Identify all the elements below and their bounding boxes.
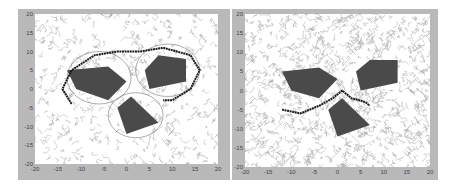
y-tick-label: -5 (238, 107, 244, 113)
y-tick-label: 20 (26, 11, 33, 17)
x-tick-label: 0 (125, 166, 129, 172)
x-tick-label: 20 (215, 166, 222, 172)
x-tick-label: -10 (76, 166, 85, 172)
y-tick-label: 5 (30, 67, 34, 73)
y-tick-label: -10 (234, 126, 243, 132)
y-tick-label: 10 (236, 49, 243, 55)
left-plot-panel: -20-15-10-50510152020151050-5-10-15-20 (18, 9, 230, 180)
y-tick-label: 0 (30, 86, 34, 92)
right-plot: -20-15-10-50510152020151050-5-10-15-20 (232, 9, 438, 180)
x-tick-label: -15 (264, 169, 273, 175)
x-tick-label: 10 (380, 169, 387, 175)
x-tick-label: -10 (287, 169, 296, 175)
x-tick-label: 15 (192, 166, 199, 172)
y-tick-label: 20 (236, 11, 243, 17)
x-tick-label: 0 (336, 169, 340, 175)
x-tick-label: -5 (312, 169, 318, 175)
y-tick-label: -10 (24, 124, 33, 130)
y-tick-label: 10 (26, 49, 33, 55)
y-tick-label: -5 (28, 105, 34, 111)
left-plot: -20-15-10-50510152020151050-5-10-15-20 (18, 9, 230, 180)
y-tick-label: 5 (240, 68, 244, 74)
x-tick-label: 20 (427, 169, 434, 175)
x-tick-label: 5 (148, 166, 152, 172)
y-tick-label: -20 (24, 161, 33, 167)
x-tick-label: 5 (359, 169, 363, 175)
right-plot-panel: -20-15-10-50510152020151050-5-10-15-20 (232, 9, 438, 180)
x-tick-label: -15 (54, 166, 63, 172)
x-tick-label: -5 (101, 166, 107, 172)
y-tick-label: -20 (234, 164, 243, 170)
y-tick-label: -15 (234, 145, 243, 151)
x-tick-label: 15 (404, 169, 411, 175)
y-tick-label: 15 (26, 30, 33, 36)
y-tick-label: 0 (240, 88, 244, 94)
x-tick-label: 10 (169, 166, 176, 172)
y-tick-label: 15 (236, 30, 243, 36)
y-tick-label: -15 (24, 142, 33, 148)
